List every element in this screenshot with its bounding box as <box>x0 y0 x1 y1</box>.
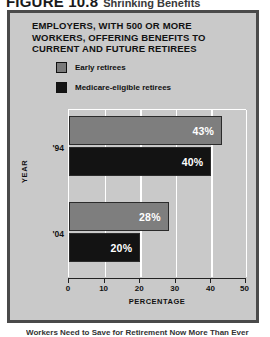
figure-title: FIGURE 10.8Shrinking Benefits <box>6 0 270 9</box>
x-axis-tick-label-30: 30 <box>170 284 179 293</box>
bar-value-04-early-retirees: 28% <box>139 211 161 223</box>
x-axis-tick-label-0: 0 <box>66 284 70 293</box>
figure-container: FIGURE 10.8Shrinking Benefits EMPLOYERS,… <box>0 0 270 337</box>
bar-value-94-early-retirees: 43% <box>192 125 214 137</box>
chart-heading-line-3: CURRENT AND FUTURE RETIREES <box>32 43 244 55</box>
y-axis-tick-label-04: '04 <box>53 229 64 239</box>
chart-panel: EMPLOYERS, WITH 500 OR MORE WORKERS, OFF… <box>7 10 259 323</box>
chart-heading: EMPLOYERS, WITH 500 OR MORE WORKERS, OFF… <box>32 20 244 55</box>
chart-legend: Early retirees Medicare-eligible retiree… <box>56 60 171 100</box>
bar-04-early-retirees: 28% <box>69 202 169 231</box>
figure-subtitle: Shrinking Benefits <box>103 0 200 9</box>
bar-94-early-retirees: 43% <box>69 116 222 145</box>
x-axis-tick-label-20: 20 <box>135 284 144 293</box>
x-axis-tick-label-10: 10 <box>99 284 108 293</box>
x-axis-tick-label-50: 50 <box>240 284 249 293</box>
figure-number: FIGURE 10.8 <box>6 0 98 9</box>
x-axis-tick-50 <box>245 278 246 283</box>
legend-swatch-icon-medicare-eligible-retirees <box>56 82 67 93</box>
legend-label-early-retirees: Early retirees <box>75 63 126 72</box>
x-axis-tick-20 <box>139 278 140 283</box>
bar-value-04-medicare-eligible-retirees: 20% <box>111 242 133 254</box>
legend-swatch-icon-early-retirees <box>56 62 67 73</box>
x-axis-title: PERCENTAGE <box>68 297 246 306</box>
x-axis-tick-10 <box>104 278 105 283</box>
x-axis-tick-label-40: 40 <box>206 284 215 293</box>
plot-canvas: 43% 40% 28% 20% <box>68 109 246 277</box>
chart-heading-line-1: EMPLOYERS, WITH 500 OR MORE <box>32 20 244 32</box>
plot-area: YEAR '94 '04 43% 40% <box>24 109 248 299</box>
legend-item-early-retirees: Early retirees <box>56 60 171 75</box>
x-axis-tick-labels: 0 10 20 30 40 50 <box>68 284 246 296</box>
bar-group: 43% 40% 28% 20% <box>69 110 246 277</box>
x-axis-tick-40 <box>210 278 211 283</box>
y-axis-tick-label-94: '94 <box>53 143 64 153</box>
y-axis-tick-labels: '94 '04 <box>42 109 64 277</box>
x-axis-line <box>68 278 246 279</box>
bar-value-94-medicare-eligible-retirees: 40% <box>182 156 204 168</box>
legend-item-medicare-eligible-retirees: Medicare-eligible retirees <box>56 80 171 95</box>
bar-94-medicare-eligible-retirees: 40% <box>69 147 211 176</box>
chart-heading-line-2: WORKERS, OFFERING BENEFITS TO <box>32 32 244 44</box>
x-axis-tick-0 <box>68 278 69 283</box>
x-axis-tick-30 <box>175 278 176 283</box>
bar-04-medicare-eligible-retirees: 20% <box>69 233 140 262</box>
y-axis-title: YEAR <box>20 160 29 183</box>
figure-caption: Workers Need to Save for Retirement Now … <box>26 328 270 337</box>
legend-label-medicare-eligible-retirees: Medicare-eligible retirees <box>75 83 171 92</box>
